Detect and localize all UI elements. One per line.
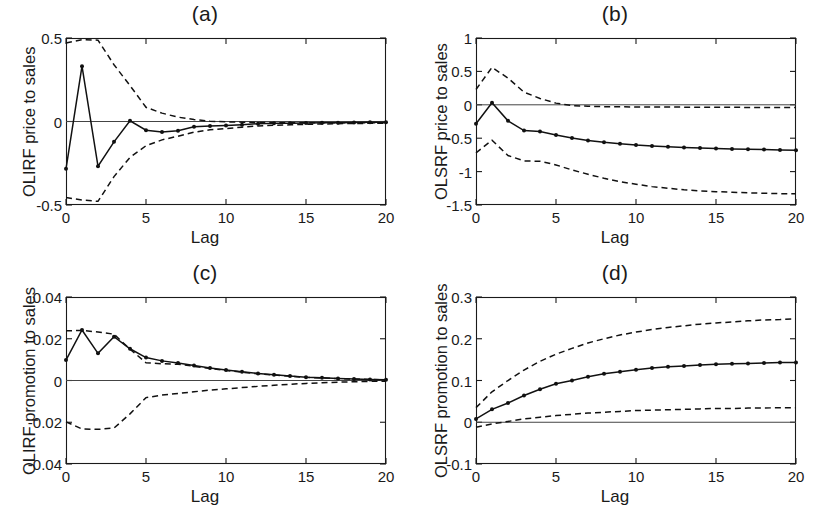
- x-tick-label: 5: [552, 209, 560, 226]
- data-point-marker: [762, 148, 766, 152]
- plot-frame: [477, 298, 796, 464]
- data-point-marker: [698, 146, 702, 150]
- panel-c-y-axis-label: OLIRF promotion to sales: [20, 287, 39, 475]
- data-point-marker: [160, 130, 164, 134]
- data-point-marker: [474, 122, 478, 126]
- series-line: [66, 66, 386, 169]
- data-point-marker: [506, 401, 510, 405]
- panel-a: (a) -0.500.505101520 LagOLIRF price to s…: [0, 0, 410, 258]
- data-point-marker: [730, 362, 734, 366]
- panel-c-axes: [66, 297, 386, 464]
- data-point-marker: [64, 167, 68, 171]
- panel-d: (d) -0.100.10.20.305101520 LagOLSRF prom…: [410, 259, 820, 517]
- data-point-marker: [80, 64, 84, 68]
- data-point-marker: [64, 358, 68, 362]
- data-point-marker: [586, 138, 590, 142]
- x-tick-label: 20: [788, 209, 805, 226]
- data-point-marker: [682, 364, 686, 368]
- x-tick-label: 10: [628, 209, 645, 226]
- data-point-marker: [714, 147, 718, 151]
- data-point-marker: [538, 130, 542, 134]
- data-point-marker: [208, 124, 212, 128]
- data-point-marker: [224, 124, 228, 128]
- panel-a-title: (a): [0, 2, 410, 26]
- data-point-marker: [586, 375, 590, 379]
- x-tick-label: 15: [708, 468, 725, 485]
- series-line: [476, 408, 796, 428]
- data-point-marker: [634, 143, 638, 147]
- data-point-marker: [144, 128, 148, 132]
- data-point-marker: [554, 382, 558, 386]
- data-point-marker: [730, 147, 734, 151]
- panel-a-x-axis-label: Lag: [0, 228, 410, 248]
- panel-d-plot: -0.100.10.20.305101520: [476, 297, 796, 464]
- data-point-marker: [794, 148, 798, 152]
- x-tick-label: 10: [628, 468, 645, 485]
- panel-b: (b) -1.5-1-0.500.5105101520 LagOLSRF pri…: [410, 0, 820, 258]
- x-tick-label: 20: [378, 468, 395, 485]
- data-point-marker: [602, 372, 606, 376]
- x-tick-label: 0: [62, 468, 70, 485]
- data-point-marker: [128, 119, 132, 123]
- data-point-marker: [522, 394, 526, 398]
- series-line: [66, 381, 386, 429]
- data-point-marker: [666, 365, 670, 369]
- data-point-marker: [192, 125, 196, 129]
- data-point-marker: [682, 146, 686, 150]
- panel-a-y-axis-label: OLIRF price to sales: [20, 46, 39, 196]
- y-tick-label: -0.5: [2, 197, 62, 214]
- x-tick-label: 5: [552, 468, 560, 485]
- data-point-marker: [746, 147, 750, 151]
- x-tick-label: 15: [298, 468, 315, 485]
- data-point-marker: [634, 368, 638, 372]
- panel-b-title: (b): [410, 2, 820, 26]
- x-tick-label: 10: [218, 209, 235, 226]
- panel-c-title: (c): [0, 261, 410, 285]
- panel-d-y-axis-label: OLSRF promotion to sales: [432, 283, 451, 477]
- data-point-marker: [618, 370, 622, 374]
- x-tick-label: 15: [298, 209, 315, 226]
- y-tick-label: 0.5: [2, 30, 62, 47]
- data-point-marker: [650, 366, 654, 370]
- series-line: [476, 67, 796, 107]
- x-tick-label: 0: [62, 209, 70, 226]
- panel-d-title: (d): [410, 261, 820, 285]
- data-point-marker: [160, 359, 164, 363]
- data-point-marker: [698, 363, 702, 367]
- data-point-marker: [144, 356, 148, 360]
- x-tick-label: 5: [142, 209, 150, 226]
- panel-c: (c) -0.04-0.0200.020.0405101520 LagOLIRF…: [0, 259, 410, 517]
- data-point-marker: [570, 379, 574, 383]
- x-tick-label: 10: [218, 468, 235, 485]
- data-point-marker: [714, 362, 718, 366]
- data-point-marker: [490, 407, 494, 411]
- panel-d-x-axis-label: Lag: [410, 487, 820, 507]
- data-point-marker: [320, 376, 324, 380]
- data-point-marker: [570, 136, 574, 140]
- data-point-marker: [522, 129, 526, 133]
- series-line: [66, 123, 386, 201]
- x-tick-label: 20: [378, 209, 395, 226]
- data-point-marker: [538, 387, 542, 391]
- data-point-marker: [778, 361, 782, 365]
- data-point-marker: [618, 142, 622, 146]
- x-tick-label: 5: [142, 468, 150, 485]
- data-point-marker: [112, 140, 116, 144]
- data-point-marker: [176, 129, 180, 133]
- data-point-marker: [650, 144, 654, 148]
- data-point-marker: [96, 351, 100, 355]
- data-point-marker: [96, 164, 100, 168]
- data-point-marker: [794, 361, 798, 365]
- data-point-marker: [240, 370, 244, 374]
- impulse-response-figure: (a) -0.500.505101520 LagOLIRF price to s…: [0, 0, 820, 517]
- data-point-marker: [602, 140, 606, 144]
- panel-b-x-axis-label: Lag: [410, 228, 820, 248]
- panel-c-x-axis-label: Lag: [0, 487, 410, 507]
- data-point-marker: [746, 361, 750, 365]
- data-point-marker: [490, 101, 494, 105]
- data-point-marker: [506, 119, 510, 123]
- x-tick-label: 0: [472, 209, 480, 226]
- panel-a-plot: -0.500.505101520: [66, 38, 386, 205]
- panel-d-axes: [476, 297, 796, 464]
- panel-a-axes: [66, 38, 386, 205]
